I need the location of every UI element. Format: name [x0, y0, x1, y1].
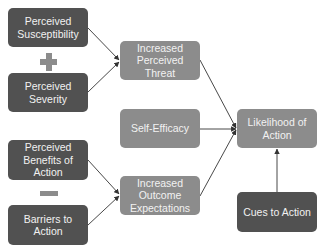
node-label: Self-Efficacy: [131, 122, 189, 135]
node-increased-perceived-threat: Increased Perceived Threat: [120, 41, 200, 80]
node-label: Likelihood of Action: [240, 116, 314, 141]
node-self-efficacy: Self-Efficacy: [120, 109, 200, 148]
node-label: Increased Perceived Threat: [123, 42, 197, 80]
minus-operator-icon: [40, 191, 58, 196]
node-perceived-benefits: Perceived Benefits of Action: [8, 140, 88, 180]
node-perceived-susceptibility: Perceived Susceptibility: [8, 8, 88, 47]
node-label: Perceived Benefits of Action: [11, 141, 85, 179]
node-label: Increased Outcome Expectations: [123, 177, 197, 215]
node-label: Perceived Susceptibility: [11, 15, 85, 40]
plus-operator-icon-vertical: [46, 53, 52, 71]
health-belief-model-diagram: Perceived Susceptibility Perceived Sever…: [0, 0, 322, 249]
node-label: Cues to Action: [243, 206, 311, 219]
node-label: Perceived Severity: [11, 80, 85, 105]
node-increased-outcome-expectations: Increased Outcome Expectations: [120, 176, 200, 215]
node-perceived-severity: Perceived Severity: [8, 73, 88, 112]
node-likelihood-of-action: Likelihood of Action: [237, 109, 317, 148]
node-label: Barriers to Action: [11, 213, 85, 238]
node-cues-to-action: Cues to Action: [237, 192, 317, 232]
node-barriers-to-action: Barriers to Action: [8, 205, 88, 245]
